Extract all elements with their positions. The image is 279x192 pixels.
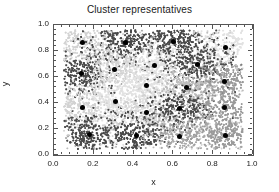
y-minor-tick [54, 92, 56, 93]
x-tick [133, 150, 134, 154]
x-minor-tick-top [180, 25, 181, 27]
x-tick [93, 150, 94, 154]
y-tick-label: 0.8 [23, 45, 49, 54]
y-minor-tick-right [250, 92, 252, 93]
y-minor-tick [54, 107, 56, 108]
y-tick-label: 0.6 [23, 71, 49, 80]
y-tick-right [248, 50, 252, 51]
y-minor-tick-right [250, 107, 252, 108]
x-minor-tick-top [149, 25, 150, 27]
y-minor-tick [54, 138, 56, 139]
y-minor-tick-right [250, 34, 252, 35]
x-minor-tick-top [61, 25, 62, 27]
x-minor-tick [244, 152, 245, 154]
y-minor-tick-right [250, 144, 252, 145]
x-tick-top [133, 25, 134, 29]
x-minor-tick-top [164, 25, 165, 27]
y-minor-tick [54, 123, 56, 124]
y-minor-tick-right [250, 45, 252, 46]
y-minor-tick-right [250, 66, 252, 67]
scatter-points-canvas [54, 25, 253, 155]
x-tick-top [172, 25, 173, 29]
x-minor-tick [236, 152, 237, 154]
y-minor-tick-right [250, 118, 252, 119]
x-minor-tick [204, 152, 205, 154]
x-minor-tick [101, 152, 102, 154]
x-minor-tick-top [220, 25, 221, 27]
x-minor-tick [220, 152, 221, 154]
y-minor-tick-right [250, 71, 252, 72]
y-tick-right [248, 24, 252, 25]
y-minor-tick-right [250, 55, 252, 56]
y-minor-tick [54, 118, 56, 119]
x-minor-tick [117, 152, 118, 154]
x-tick [172, 150, 173, 154]
x-tick-label: 1.0 [237, 159, 267, 168]
y-minor-tick [54, 29, 56, 30]
x-minor-tick [228, 152, 229, 154]
y-minor-tick-right [250, 40, 252, 41]
y-tick-right [248, 102, 252, 103]
y-minor-tick-right [250, 86, 252, 87]
y-minor-tick [54, 60, 56, 61]
y-minor-tick-right [250, 60, 252, 61]
x-tick-label: 0.4 [118, 159, 148, 168]
x-minor-tick-top [204, 25, 205, 27]
x-minor-tick [164, 152, 165, 154]
figure: Cluster representatives 0.00.20.40.60.81… [0, 0, 279, 192]
x-minor-tick [85, 152, 86, 154]
y-minor-tick [54, 45, 56, 46]
x-minor-tick-top [228, 25, 229, 27]
x-minor-tick-top [244, 25, 245, 27]
y-minor-tick [54, 71, 56, 72]
x-tick-top [252, 25, 253, 29]
x-minor-tick [77, 152, 78, 154]
y-minor-tick-right [250, 112, 252, 113]
y-tick [54, 154, 58, 155]
y-tick-label: 1.0 [23, 19, 49, 28]
x-minor-tick-top [101, 25, 102, 27]
y-tick [54, 102, 58, 103]
chart-title: Cluster representatives [0, 4, 279, 15]
y-tick [54, 24, 58, 25]
x-minor-tick-top [77, 25, 78, 27]
x-minor-tick-top [156, 25, 157, 27]
x-minor-tick [180, 152, 181, 154]
x-tick-top [93, 25, 94, 29]
y-minor-tick [54, 34, 56, 35]
y-minor-tick-right [250, 133, 252, 134]
y-tick-right [248, 76, 252, 77]
y-minor-tick-right [250, 81, 252, 82]
x-minor-tick [196, 152, 197, 154]
x-minor-tick-top [141, 25, 142, 27]
y-minor-tick [54, 66, 56, 67]
x-tick-label: 0.8 [197, 159, 227, 168]
y-tick [54, 128, 58, 129]
x-tick-label: 0.0 [38, 159, 68, 168]
x-minor-tick [156, 152, 157, 154]
x-minor-tick-top [117, 25, 118, 27]
x-minor-tick [125, 152, 126, 154]
x-tick-label: 0.6 [157, 159, 187, 168]
y-minor-tick-right [250, 29, 252, 30]
x-minor-tick [69, 152, 70, 154]
x-minor-tick [149, 152, 150, 154]
x-tick [252, 150, 253, 154]
x-minor-tick [188, 152, 189, 154]
y-tick-right [248, 128, 252, 129]
y-axis-label: y [0, 82, 10, 87]
y-tick-label: 0.4 [23, 97, 49, 106]
y-tick-right [248, 154, 252, 155]
x-tick-label: 0.2 [78, 159, 108, 168]
x-minor-tick-top [236, 25, 237, 27]
x-minor-tick-top [125, 25, 126, 27]
x-minor-tick-top [109, 25, 110, 27]
x-minor-tick [109, 152, 110, 154]
y-minor-tick [54, 81, 56, 82]
y-minor-tick [54, 144, 56, 145]
y-minor-tick-right [250, 97, 252, 98]
x-minor-tick-top [85, 25, 86, 27]
x-tick-top [212, 25, 213, 29]
y-minor-tick-right [250, 138, 252, 139]
x-tick [212, 150, 213, 154]
